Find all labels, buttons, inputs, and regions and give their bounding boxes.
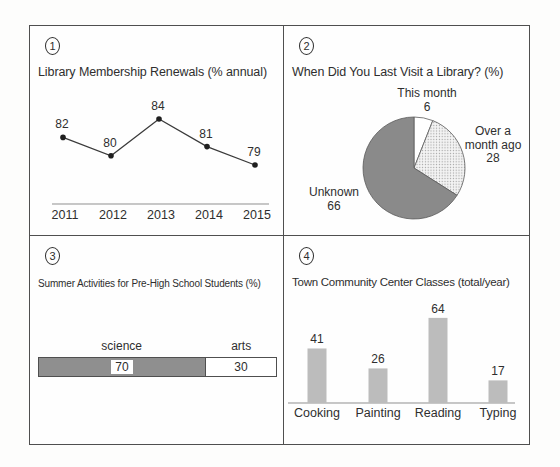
bar-value-label: 17 <box>491 364 505 378</box>
panel-summer-activities: 3 Summer Activities for Pre-High School … <box>30 236 284 444</box>
category-label-science: science <box>101 339 142 353</box>
bar-category-label: Painting <box>355 406 400 420</box>
pie-value-this-month: 6 <box>387 101 467 115</box>
bar-category-label: Typing <box>480 406 517 420</box>
bar-category-label: Reading <box>415 406 462 420</box>
panel-3-number-badge: 3 <box>45 247 60 265</box>
line-value-label: 80 <box>103 136 117 150</box>
line-point <box>252 162 258 168</box>
panel-community-classes: 4 Town Community Center Classes (total/y… <box>284 236 529 444</box>
stacked-bar-category-labels: science arts <box>38 339 277 355</box>
line-value-label: 79 <box>247 145 261 159</box>
line-chart: 822011802012842013812014792015 <box>30 26 283 235</box>
pie-label-unknown: Unknown 66 <box>296 186 372 213</box>
panel-3-title: Summer Activities for Pre-High School St… <box>38 278 261 289</box>
pie-label-this-month: This month 6 <box>387 87 467 114</box>
bar-chart: 41Cooking26Painting64Reading17Typing <box>284 236 528 444</box>
x-tick-label: 2013 <box>147 208 175 222</box>
bar-value-science: 70 <box>111 360 132 374</box>
panel-library-renewals: 1 Library Membership Renewals (% annual)… <box>30 26 284 236</box>
bar-segment-arts: 30 <box>205 358 276 376</box>
x-tick-label: 2012 <box>99 208 127 222</box>
x-tick-label: 2011 <box>52 208 79 222</box>
x-tick-label: 2014 <box>195 208 223 222</box>
bar-cooking <box>308 348 327 403</box>
x-tick-label: 2015 <box>243 208 271 222</box>
chart-grid: 1 Library Membership Renewals (% annual)… <box>30 26 529 444</box>
bar-value-label: 64 <box>431 302 445 316</box>
stacked-bar-chart: science arts 70 30 <box>38 339 277 377</box>
stacked-bar: 70 30 <box>38 357 277 377</box>
line-point <box>60 135 66 141</box>
bar-typing <box>489 380 508 403</box>
line-point <box>156 116 162 122</box>
category-label-arts: arts <box>231 339 251 353</box>
bar-value-label: 41 <box>310 332 324 346</box>
pie-value-over-month: 28 <box>461 152 525 166</box>
pie-value-unknown: 66 <box>296 200 372 214</box>
bar-segment-science: 70 <box>39 358 205 376</box>
pie-label-unknown-text: Unknown <box>309 185 359 199</box>
line-value-label: 81 <box>199 127 213 141</box>
line-series <box>63 119 255 165</box>
bar-category-label: Cooking <box>294 406 340 420</box>
bar-painting <box>369 368 388 403</box>
pie-label-over-month-text: Over a month ago <box>465 124 522 152</box>
bar-value-label: 26 <box>371 352 385 366</box>
panel-library-visit: 2 When Did You Last Visit a Library? (%)… <box>284 26 529 236</box>
bar-reading <box>429 318 448 403</box>
line-value-label: 84 <box>151 99 165 113</box>
chart-worksheet: 1 Library Membership Renewals (% annual)… <box>29 25 530 445</box>
pie-label-over-month: Over a month ago 28 <box>461 125 525 166</box>
line-value-label: 82 <box>55 117 69 131</box>
line-point <box>108 153 114 159</box>
line-point <box>204 144 210 150</box>
pie-label-this-month-text: This month <box>397 86 456 100</box>
bar-value-arts: 30 <box>234 360 247 374</box>
